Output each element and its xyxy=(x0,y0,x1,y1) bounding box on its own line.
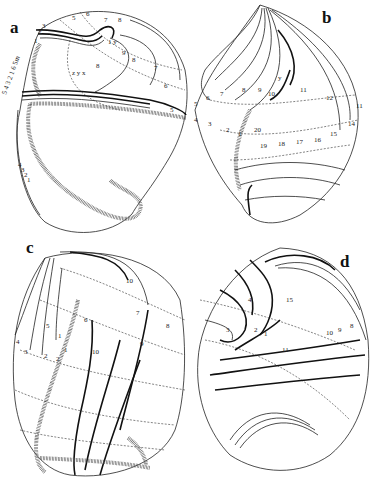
svg-text:19: 19 xyxy=(260,142,268,150)
panel-b-drawing: 5 6 7 8 9 10 11 12 11 y 4 3 2 1 20 19 18… xyxy=(190,0,372,235)
svg-text:20: 20 xyxy=(254,126,262,134)
svg-text:10: 10 xyxy=(326,329,334,337)
svg-text:z y x: z y x xyxy=(72,69,86,77)
svg-text:5: 5 xyxy=(170,106,174,114)
svg-text:1 y: 1 y xyxy=(108,38,117,46)
svg-text:8: 8 xyxy=(350,322,354,330)
svg-text:1: 1 xyxy=(27,176,31,184)
svg-text:3: 3 xyxy=(226,326,230,334)
svg-text:6: 6 xyxy=(164,82,168,90)
svg-text:5: 5 xyxy=(194,100,198,108)
svg-text:3: 3 xyxy=(208,120,212,128)
svg-text:10: 10 xyxy=(92,348,100,356)
panel-c-drawing: 10 7 8 6 5 1 4 3 2 2 1 10 9 xyxy=(0,240,190,481)
svg-text:6: 6 xyxy=(206,94,210,102)
svg-text:y: y xyxy=(278,74,282,82)
panel-a: a 3 2 1 5 6 7 8 1 y 9 8 7 6 5 z y x 8 5 … xyxy=(0,0,190,240)
svg-text:9: 9 xyxy=(122,49,126,57)
svg-text:1: 1 xyxy=(64,346,68,354)
svg-text:7: 7 xyxy=(154,64,158,72)
svg-text:9: 9 xyxy=(338,326,342,334)
svg-text:1: 1 xyxy=(264,330,268,338)
svg-text:5 4 3 2 1 6 5m: 5 4 3 2 1 6 5m xyxy=(0,54,22,95)
svg-text:8: 8 xyxy=(132,56,136,64)
svg-text:7: 7 xyxy=(136,309,140,317)
svg-text:11: 11 xyxy=(300,86,307,94)
svg-text:15: 15 xyxy=(330,130,338,138)
svg-text:18: 18 xyxy=(278,140,286,148)
svg-text:12: 12 xyxy=(326,94,334,102)
svg-text:3: 3 xyxy=(24,348,28,356)
panel-b: b 5 6 7 8 9 10 11 12 11 y 4 3 2 1 20 19 xyxy=(190,0,372,235)
svg-text:16: 16 xyxy=(314,136,322,144)
svg-text:8: 8 xyxy=(166,322,170,330)
svg-text:5: 5 xyxy=(46,322,50,330)
svg-text:8: 8 xyxy=(118,16,122,24)
svg-text:11: 11 xyxy=(356,102,363,110)
svg-text:6: 6 xyxy=(86,10,90,18)
panel-d: d 4 3 2 1 11 15 10 9 8 xyxy=(190,240,372,481)
svg-text:2: 2 xyxy=(226,126,230,134)
svg-text:1: 1 xyxy=(238,130,242,138)
svg-text:11: 11 xyxy=(282,346,289,354)
svg-text:4: 4 xyxy=(194,116,198,124)
svg-text:2: 2 xyxy=(254,326,258,334)
svg-text:4: 4 xyxy=(16,338,20,346)
svg-text:5: 5 xyxy=(72,14,76,22)
svg-text:15: 15 xyxy=(286,296,294,304)
svg-text:1: 1 xyxy=(34,37,38,45)
svg-text:1: 1 xyxy=(58,332,62,340)
svg-text:2: 2 xyxy=(56,355,60,363)
svg-text:9: 9 xyxy=(258,86,262,94)
svg-text:8: 8 xyxy=(96,62,100,70)
panel-c: c 10 7 8 6 5 1 4 3 2 2 1 10 9 xyxy=(0,240,190,481)
svg-text:10: 10 xyxy=(268,90,276,98)
svg-text:7: 7 xyxy=(104,16,108,24)
svg-text:17: 17 xyxy=(296,138,304,146)
svg-text:14: 14 xyxy=(348,120,356,128)
panel-a-drawing: 3 2 1 5 6 7 8 1 y 9 8 7 6 5 z y x 8 5 4 … xyxy=(0,0,190,240)
svg-text:4: 4 xyxy=(248,296,252,304)
panel-d-drawing: 4 3 2 1 11 15 10 9 8 xyxy=(190,240,372,481)
svg-text:9: 9 xyxy=(140,340,144,348)
svg-text:6: 6 xyxy=(84,316,88,324)
svg-text:2: 2 xyxy=(44,352,48,360)
svg-text:3: 3 xyxy=(42,22,46,30)
svg-text:8: 8 xyxy=(242,86,246,94)
svg-text:2: 2 xyxy=(38,28,42,36)
svg-text:7: 7 xyxy=(220,90,224,98)
svg-text:10: 10 xyxy=(126,277,134,285)
